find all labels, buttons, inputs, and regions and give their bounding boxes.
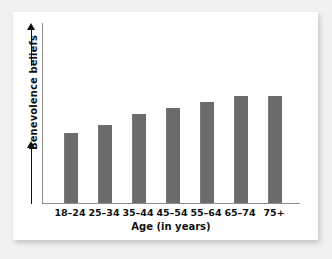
bar	[166, 108, 180, 203]
bar	[200, 102, 214, 203]
bar	[234, 96, 248, 203]
bar	[64, 133, 78, 203]
bar	[132, 114, 146, 203]
x-axis-title: Age (in years)	[42, 221, 300, 232]
x-axis-baseline	[42, 203, 300, 204]
x-axis-tick-label: 75+	[253, 207, 295, 218]
y-axis-title: Benevolence beliefs	[28, 18, 39, 168]
bar	[98, 125, 112, 203]
plot-area: 18–2425–3435–4445–5455–6465–7475+ Benevo…	[13, 12, 318, 240]
bar	[268, 96, 282, 203]
y-axis-label-group: Benevolence beliefs	[22, 23, 44, 204]
figure-card: 18–2425–3435–4445–5455–6465–7475+ Benevo…	[13, 12, 318, 240]
